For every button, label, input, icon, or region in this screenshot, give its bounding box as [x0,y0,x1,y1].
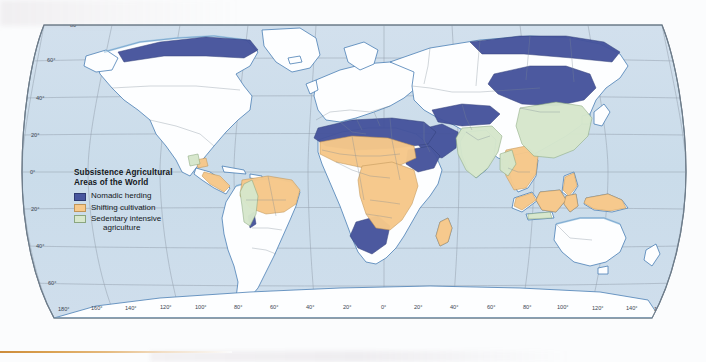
lon-label-120e: 120° [592,305,604,311]
lon-label-80w: 80° [234,304,242,310]
lon-label-40e: 40° [450,304,458,310]
lon-label-60w: 60° [270,304,278,310]
lon-label-100e: 100° [557,304,569,310]
lat-label-40s: 40° [36,243,44,249]
footer-accent-rule [0,351,232,354]
lat-label-60s: 60° [48,280,56,286]
lon-label-0: 0° [381,304,386,310]
lon-label-60e: 60° [487,304,495,310]
lat-label-60: 60° [47,57,55,63]
lon-label-160w: 160° [91,305,103,311]
lon-label-20e: 20° [414,304,422,310]
world-map-svg: 80° 60° 40° 20° 0° 20° 40° 60° 180° 160°… [0,0,706,362]
lon-label-80e: 80° [523,304,531,310]
lon-label-140e: 140° [626,305,638,311]
lon-label-180w: 180° [58,306,70,312]
lon-label-20w: 20° [343,304,351,310]
lat-label-0: 0° [30,169,35,175]
lon-label-100w: 100° [195,304,207,310]
lat-label-20n: 20° [31,132,39,138]
lon-label-40w: 40° [306,304,314,310]
map-figure: 80° 60° 40° 20° 0° 20° 40° 60° 180° 160°… [0,0,706,362]
lon-label-120w: 120° [160,304,172,310]
lat-label-40: 40° [36,95,44,101]
lat-label-20s: 20° [31,206,39,212]
lon-label-140w: 140° [125,305,137,311]
page-top-artifact [0,0,240,26]
